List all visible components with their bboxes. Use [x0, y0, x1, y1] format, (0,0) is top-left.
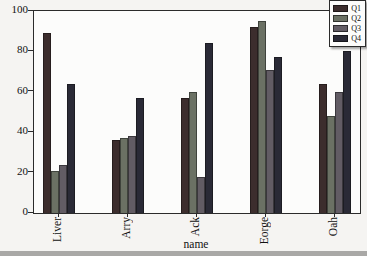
y-axis-tick-label: 60 [0, 84, 28, 97]
bar-q4-ack [205, 43, 213, 213]
bar-q4-oah [343, 51, 351, 213]
bar-q3-eorge [266, 70, 274, 213]
window-edge [0, 251, 367, 256]
x-axis-tick-label: Arry [119, 217, 133, 239]
bar-q1-eorge [250, 27, 258, 213]
y-axis-tick-mark [28, 171, 33, 172]
bar-q3-arry [128, 136, 136, 213]
y-axis-tick-mark [28, 212, 33, 213]
y-axis-tick-label: 100 [0, 3, 28, 16]
bar-q1-oah [319, 84, 327, 213]
x-axis-tick-label: Liver [50, 217, 64, 242]
x-axis-tick-label: Eorge [257, 217, 271, 244]
legend-label-q4: Q4 [351, 35, 361, 43]
bar-q4-eorge [274, 57, 282, 213]
y-axis-tick-mark [28, 50, 33, 51]
bar-q1-liver [43, 33, 51, 213]
legend-label-q1: Q1 [351, 5, 361, 13]
x-axis-tick-label: Oah [326, 217, 340, 236]
bar-q2-arry [120, 138, 128, 213]
bar-q2-ack [189, 92, 197, 213]
plot-area [33, 10, 361, 214]
y-axis-tick-mark [28, 10, 33, 11]
x-axis-tick-label: Ack [188, 217, 202, 236]
chart-figure: Q1Q2Q3Q4 name 020406080100LiverArryAckEo… [0, 0, 367, 256]
y-axis-tick-label: 80 [0, 43, 28, 56]
legend-label-q2: Q2 [351, 15, 361, 23]
bar-q3-ack [197, 177, 205, 213]
legend-label-q3: Q3 [351, 25, 361, 33]
y-axis-tick-label: 20 [0, 165, 28, 178]
bar-q3-oah [335, 92, 343, 213]
bar-q4-arry [136, 98, 144, 213]
bar-q1-ack [181, 98, 189, 213]
bar-q2-oah [327, 116, 335, 213]
legend: Q1Q2Q3Q4 [329, 0, 366, 47]
bar-q2-liver [51, 171, 59, 213]
y-axis-tick-mark [28, 131, 33, 132]
legend-swatch-q1 [333, 5, 348, 12]
legend-swatch-q3 [333, 25, 348, 32]
legend-swatch-q2 [333, 15, 348, 22]
legend-item-q4: Q4 [333, 34, 361, 43]
legend-item-q3: Q3 [333, 24, 361, 33]
legend-item-q1: Q1 [333, 4, 361, 13]
y-axis-tick-label: 0 [0, 205, 28, 218]
bar-q4-liver [67, 84, 75, 213]
y-axis-tick-label: 40 [0, 124, 28, 137]
legend-item-q2: Q2 [333, 14, 361, 23]
legend-swatch-q4 [333, 35, 348, 42]
bar-q3-liver [59, 165, 67, 213]
bar-q1-arry [112, 140, 120, 213]
y-axis-tick-mark [28, 90, 33, 91]
bar-q2-eorge [258, 21, 266, 213]
